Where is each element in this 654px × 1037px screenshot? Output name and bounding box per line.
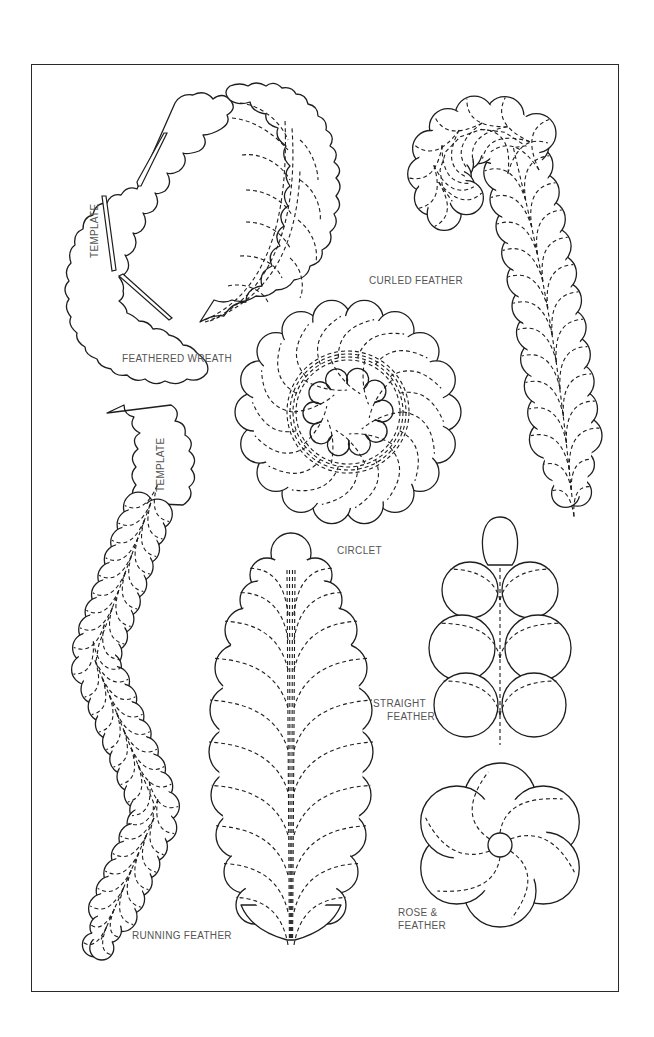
circlet-label: CIRCLET [337, 545, 382, 557]
straight-feather-label-line1: STRAIGHT [373, 698, 426, 710]
running-feather-label: RUNNING FEATHER [132, 930, 232, 942]
wreath-template-label: TEMPLATE [89, 204, 100, 258]
straight-feather-label-line2: FEATHER [387, 711, 435, 723]
quilting-patterns-artwork [0, 0, 654, 1037]
running-feather-lobes [72, 485, 180, 960]
running-feather-template [107, 405, 195, 505]
circlet-lobes-drawn [235, 300, 461, 523]
feathered-wreath-label: FEATHERED WREATH [122, 353, 232, 365]
rose-feather-label-line2: FEATHER [398, 920, 446, 932]
rose-feather-label-line1: ROSE & [398, 907, 438, 919]
curled-feather-label: CURLED FEATHER [369, 275, 463, 287]
rose-and-feather-lobes [421, 517, 580, 927]
straight-feather-lobes [209, 533, 373, 945]
running-template-label: TEMPLATE [155, 438, 166, 492]
